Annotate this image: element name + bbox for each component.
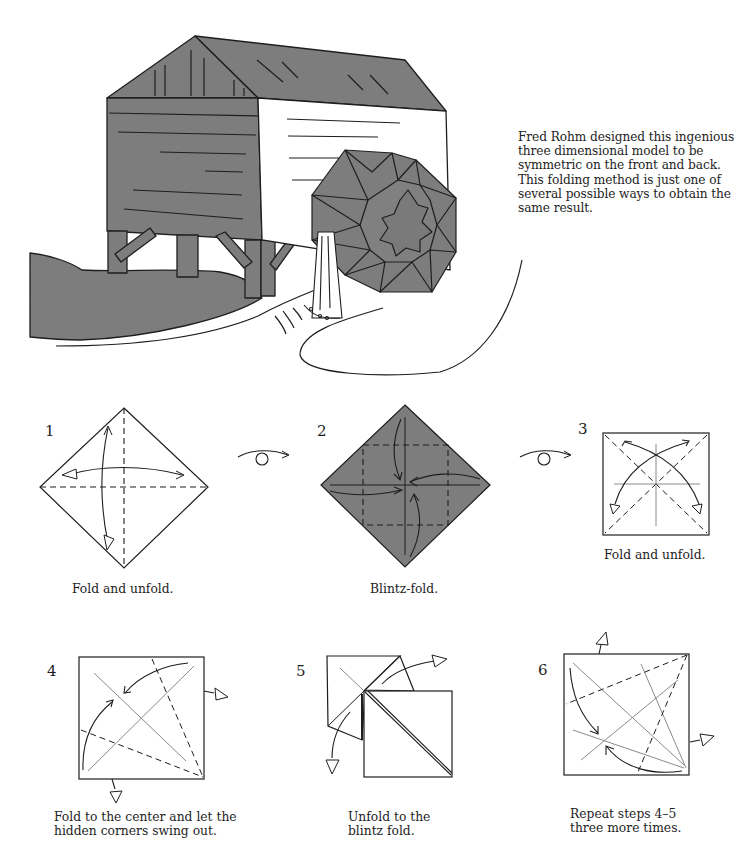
turn-over-icon	[232, 445, 292, 475]
step-6: 6 Repeat steps 4–5 three more times.	[520, 625, 742, 863]
step-2: 2 Blintz-fold.	[300, 395, 520, 605]
mill-illustration	[0, 0, 530, 380]
step-5: 5 Unfold to the blintz fold.	[290, 640, 490, 863]
step-caption-line-1: Fold to the center and let the	[54, 810, 237, 824]
step-caption-line-1: Repeat steps 4–5	[570, 807, 676, 821]
step-caption: Fold and unfold.	[604, 548, 706, 562]
turn-over-symbol-1	[232, 445, 292, 475]
step-1: 1 Fold and unfold.	[0, 395, 310, 605]
step-3: 3 Fold and unfold.	[510, 400, 742, 590]
step-caption-line-2: hidden corners swing out.	[54, 824, 217, 838]
step-1-diagram	[0, 395, 310, 605]
step-caption-line-2: three more times.	[570, 821, 681, 835]
step-caption: Fold and unfold.	[72, 582, 174, 596]
step-2-diagram	[300, 395, 520, 605]
step-4: 4 Fold to the center and let the hidden …	[30, 640, 290, 863]
step-caption-line-2: blintz fold.	[348, 824, 415, 838]
step-caption-line-1: Unfold to the	[348, 810, 430, 824]
step-caption: Blintz-fold.	[370, 582, 438, 596]
mill-drawing	[0, 0, 530, 380]
intro-paragraph: Fred Rohm designed this ingenious three …	[518, 130, 742, 215]
